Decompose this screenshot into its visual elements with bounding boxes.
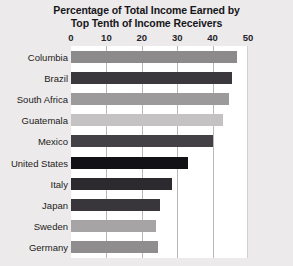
bar-brazil (71, 72, 232, 84)
bar-italy (71, 178, 172, 190)
bar-germany (71, 241, 158, 253)
bar-mexico (71, 135, 213, 147)
category-label-germany: Germany (0, 242, 68, 253)
category-label-united-states: United States (0, 158, 68, 169)
chart-title: Percentage of Total Income Earned by Top… (0, 4, 293, 30)
chart-title-line-2: Top Tenth of Income Receivers (0, 17, 293, 30)
category-label-south-africa: South Africa (0, 94, 68, 105)
x-tick-label-30: 30 (172, 32, 183, 43)
bar-japan (71, 199, 160, 211)
chart-title-line-1: Percentage of Total Income Earned by (0, 4, 293, 17)
x-tick-label-50: 50 (243, 32, 254, 43)
x-tick-label-0: 0 (68, 32, 73, 43)
category-label-columbia: Columbia (0, 52, 68, 63)
bar-united-states (71, 157, 188, 169)
bar-sweden (71, 220, 156, 232)
x-tick-label-20: 20 (137, 32, 148, 43)
category-label-brazil: Brazil (0, 73, 68, 84)
category-label-japan: Japan (0, 200, 68, 211)
category-label-italy: Italy (0, 179, 68, 190)
bar-south-africa (71, 93, 229, 105)
y-axis-category-labels: ColumbiaBrazilSouth AfricaGuatemalaMexic… (0, 46, 68, 258)
category-label-guatemala: Guatemala (0, 115, 68, 126)
x-axis-tick-labels: 01020304050 (0, 32, 293, 46)
bar-chart: Percentage of Total Income Earned by Top… (0, 0, 293, 266)
bar-columbia (71, 51, 237, 63)
category-label-mexico: Mexico (0, 136, 68, 147)
bars-layer (71, 46, 247, 258)
plot-area (71, 46, 248, 258)
bar-guatemala (71, 114, 223, 126)
category-label-sweden: Sweden (0, 221, 68, 232)
x-tick-label-10: 10 (101, 32, 112, 43)
x-tick-label-40: 40 (207, 32, 218, 43)
